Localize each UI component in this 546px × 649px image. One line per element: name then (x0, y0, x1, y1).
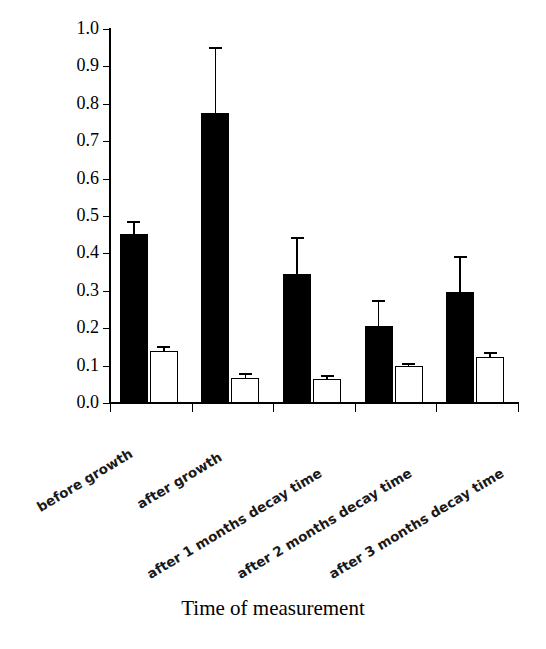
error-bar-stem-filled-4 (459, 258, 461, 292)
y-axis-tick: 0.2 (103, 328, 110, 329)
bar-open-1 (231, 378, 259, 403)
y-axis-tick-label: 0.5 (77, 205, 100, 226)
y-axis-tick-label: 1.0 (77, 18, 100, 39)
bar-filled-3 (365, 326, 393, 403)
x-axis-tick (273, 403, 274, 412)
error-bar-cap-open-0 (157, 346, 170, 348)
error-bar-stem-filled-0 (133, 223, 135, 233)
error-bar-stem-open-2 (326, 377, 328, 379)
bar-open-3 (395, 366, 423, 403)
y-axis-tick: 0.5 (103, 216, 110, 217)
error-bar-cap-filled-0 (127, 221, 140, 223)
y-axis-tick-label: 0.2 (77, 317, 100, 338)
y-axis-tick: 0.1 (103, 366, 110, 367)
error-bar-cap-open-1 (239, 373, 252, 375)
error-bar-cap-filled-1 (209, 47, 222, 49)
x-category-label-4: after 3 months decay time (326, 465, 507, 582)
error-bar-stem-open-0 (163, 348, 165, 351)
x-axis-tick (518, 403, 519, 412)
error-bar-stem-filled-1 (215, 49, 217, 113)
error-bar-stem-open-1 (245, 375, 247, 378)
x-axis-tick (110, 403, 111, 412)
bar-open-4 (476, 357, 504, 403)
y-axis-tick: 0.9 (103, 66, 110, 67)
y-axis-tick-label: 0.4 (77, 242, 100, 263)
error-bar-cap-filled-3 (372, 300, 385, 302)
x-axis-tick (355, 403, 356, 412)
x-category-label-0: before growth (34, 445, 135, 515)
error-bar-cap-open-3 (402, 363, 415, 365)
x-axis-tick (192, 403, 193, 412)
y-axis-tick: 0.6 (103, 179, 110, 180)
y-axis-tick-label: 0.3 (77, 280, 100, 301)
error-bar-stem-open-3 (408, 365, 410, 366)
x-axis-tick (436, 403, 437, 412)
y-axis-tick: 0.3 (103, 291, 110, 292)
x-axis-title: Time of measurement (0, 596, 546, 621)
error-bar-cap-open-2 (321, 375, 334, 377)
y-axis-tick-label: 0.8 (77, 93, 100, 114)
bar-filled-2 (283, 274, 311, 403)
error-bar-stem-filled-2 (296, 239, 298, 274)
y-axis-tick-label: 0.1 (77, 355, 100, 376)
y-axis-tick: 0.0 (103, 403, 110, 404)
y-axis-tick-label: 0.0 (77, 392, 100, 413)
bar-open-2 (313, 379, 341, 403)
y-axis-tick: 0.8 (103, 104, 110, 105)
y-axis-tick-label: 0.9 (77, 55, 100, 76)
bar-filled-0 (120, 234, 148, 403)
x-category-label-3: after 2 months decay time (234, 465, 415, 582)
y-axis-tick-label: 0.7 (77, 130, 100, 151)
y-axis-tick: 0.7 (103, 141, 110, 142)
error-bar-stem-filled-3 (378, 302, 380, 325)
bar-open-0 (150, 351, 178, 403)
bar-chart-figure: hydraulic conductivity (m/day) 0.00.10.2… (0, 0, 546, 649)
error-bar-stem-open-4 (489, 354, 491, 357)
y-axis-tick: 0.4 (103, 253, 110, 254)
y-axis-tick: 1.0 (103, 29, 110, 30)
error-bar-cap-open-4 (484, 352, 497, 354)
y-axis-tick-label: 0.6 (77, 168, 100, 189)
x-category-label-1: after growth (134, 449, 225, 512)
error-bar-cap-filled-2 (291, 237, 304, 239)
plot-area: 0.00.10.20.30.40.50.60.70.80.91.0 (110, 29, 518, 403)
bar-filled-4 (446, 292, 474, 403)
error-bar-cap-filled-4 (454, 256, 467, 258)
bar-filled-1 (201, 113, 229, 403)
